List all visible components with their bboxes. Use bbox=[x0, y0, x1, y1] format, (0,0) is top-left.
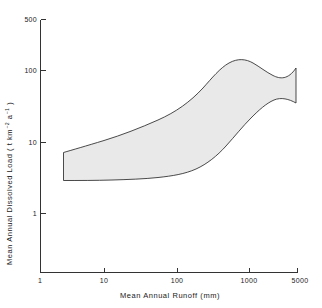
chart-svg: 500 100 10 1 1 10 100 1000 5000 Mean Ann… bbox=[0, 0, 322, 308]
y-axis-title-sup2: −1 bbox=[4, 107, 10, 114]
y-tick-label-10: 10 bbox=[29, 139, 37, 146]
y-tick-label-1: 1 bbox=[33, 210, 37, 217]
x-tick-label-10: 10 bbox=[100, 277, 108, 284]
x-tick-label-1000: 1000 bbox=[241, 277, 258, 284]
chart-figure: 500 100 10 1 1 10 100 1000 5000 Mean Ann… bbox=[0, 0, 322, 308]
y-axis-title-part1: Mean Annual Dissolved Load ( t km bbox=[5, 129, 14, 265]
y-axis-title-sup1: −2 bbox=[4, 122, 10, 129]
x-axis-title: Mean Annual Runoff (mm) bbox=[120, 291, 220, 300]
x-tick-label-1: 1 bbox=[38, 277, 42, 284]
y-axis-title-part3: ) bbox=[5, 102, 14, 108]
y-tick-label-100: 100 bbox=[24, 67, 37, 74]
x-tick-label-100: 100 bbox=[171, 277, 184, 284]
x-tick-label-5000: 5000 bbox=[292, 277, 309, 284]
y-tick-label-500: 500 bbox=[24, 16, 37, 23]
